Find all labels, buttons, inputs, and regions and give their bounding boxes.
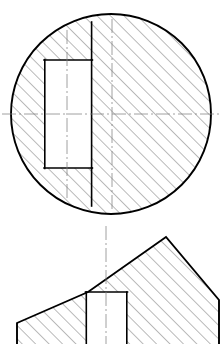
section-hatching-top [0, 0, 220, 230]
drawing-svg [0, 0, 220, 344]
section-hatching-bottom [0, 230, 220, 344]
top-circular-section-view [0, 0, 220, 230]
technical-drawing-canvas [0, 0, 220, 344]
bottom-angled-section-view [0, 226, 220, 344]
bottom-keyway-slot-outline [86, 292, 128, 344]
